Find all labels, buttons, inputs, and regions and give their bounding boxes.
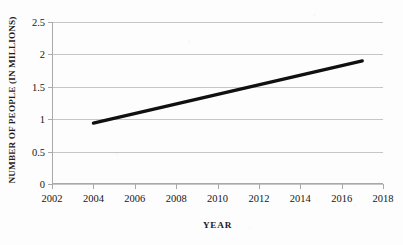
- x-tick-label: 2004: [83, 193, 104, 204]
- x-tick-mark: [300, 184, 301, 189]
- x-tick-mark: [383, 184, 384, 189]
- x-tick-mark: [135, 184, 136, 189]
- y-tick-label: 0.5: [32, 146, 45, 157]
- x-tick-mark: [52, 184, 53, 189]
- y-axis-title: NUMBER OF PEOPLE (IN MILLIONS): [0, 0, 22, 200]
- y-axis-title-label: NUMBER OF PEOPLE (IN MILLIONS): [6, 17, 16, 184]
- x-tick-label: 2016: [331, 193, 352, 204]
- x-axis-title: YEAR: [52, 220, 383, 230]
- series-line-group: [52, 22, 383, 184]
- x-tick-label: 2008: [166, 193, 187, 204]
- x-tick-mark: [259, 184, 260, 189]
- x-tick-label: 2012: [248, 193, 269, 204]
- y-tick-label: 0: [40, 179, 45, 190]
- y-tick-label: 1.5: [32, 81, 45, 92]
- x-tick-mark: [176, 184, 177, 189]
- x-tick-label: 2018: [373, 193, 394, 204]
- x-tick-mark: [218, 184, 219, 189]
- y-tick-label: 2.5: [32, 17, 45, 28]
- y-tick-label: 2: [40, 49, 45, 60]
- x-tick-label: 2014: [290, 193, 311, 204]
- x-tick-mark: [93, 184, 94, 189]
- x-tick-label: 2006: [124, 193, 145, 204]
- y-tick-label: 1: [40, 114, 45, 125]
- series-line-number-of-people: [93, 61, 362, 123]
- line-chart-figure: NUMBER OF PEOPLE (IN MILLIONS) 00.511.52…: [0, 0, 403, 245]
- plot-area: 00.511.522.5 200220042006200820102012201…: [52, 22, 383, 184]
- x-tick-label: 2002: [42, 193, 63, 204]
- x-tick-mark: [342, 184, 343, 189]
- x-tick-label: 2010: [207, 193, 228, 204]
